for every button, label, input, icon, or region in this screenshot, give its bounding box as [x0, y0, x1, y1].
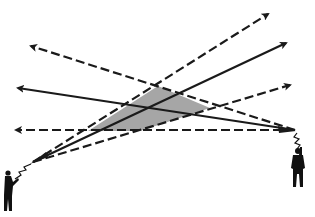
- diagram-canvas: [0, 0, 315, 217]
- right-antenna-icon: [294, 133, 300, 149]
- left-antenna-icon: [15, 164, 31, 179]
- left-antenna-beam-origin: [30, 152, 48, 164]
- beam-diagram: [0, 0, 315, 217]
- left-beam-solid: [33, 43, 286, 162]
- left-beam-upper-dashed: [33, 14, 268, 162]
- right-person-icon: [291, 133, 305, 187]
- left-person-icon: [4, 164, 31, 211]
